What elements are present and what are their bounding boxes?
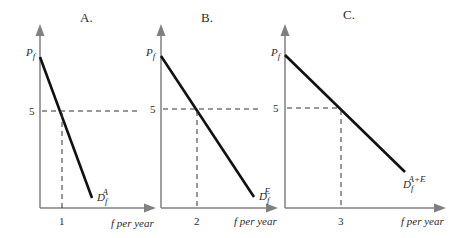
panel-a-title: A. [80,10,93,25]
demand-charts: A. Pf 5 1 DfA f per year B. Pf 5 2 DfE f… [0,0,463,238]
qty-tick: 3 [338,215,344,227]
price-tick: 5 [150,103,156,115]
y-axis-label: Pf [270,46,282,61]
curve-label: DfA+E [402,174,426,193]
y-axis-label: Pf [25,46,37,61]
y-axis-label: Pf [145,46,157,61]
panel-b-title: B. [201,10,213,25]
demand-curve-b [161,56,254,197]
panel-b: B. Pf 5 2 DfE f per year [145,10,277,227]
curve-label: DfE [258,186,271,205]
x-axis-label: f per year [234,215,277,227]
x-axis-label: f per year [401,215,444,227]
qty-tick: 1 [59,215,65,227]
demand-curve-a [40,57,92,198]
price-tick: 5 [273,102,279,114]
panel-c-title: C. [343,7,355,22]
demand-curve-c [285,55,405,172]
curve-label: DfA [96,187,109,206]
x-axis-label: f per year [111,217,154,229]
qty-tick: 2 [194,215,200,227]
panel-c: C. Pf 5 3 DfA+E f per year [270,7,444,227]
panel-a: A. Pf 5 1 DfA f per year [25,10,154,229]
price-tick: 5 [29,105,35,117]
